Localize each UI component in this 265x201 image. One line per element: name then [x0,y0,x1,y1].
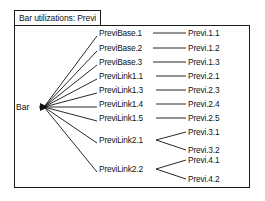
window-title-tab: Bar utilizations: Previ [14,10,101,26]
node-mid-1: PreviBase.2 [99,43,143,53]
node-leaf-9: Previ.4.1 [188,155,220,165]
node-mid-6: PreviLink1.5 [99,113,143,123]
node-mid-5: PreviLink1.4 [99,99,143,109]
node-mid-4: PreviLink1.3 [99,85,143,95]
node-leaf-2: Previ.1.3 [188,57,220,67]
node-leaf-6: Previ.2.5 [188,113,220,123]
node-root: Bar [16,102,30,112]
branch-edges [153,33,186,179]
tree-graph: Bar PreviBase.1 PreviBase.2 PreviBase.3 … [0,0,265,201]
root-edges [44,36,97,172]
node-mid-0: PreviBase.1 [99,28,143,38]
diagram-canvas: Bar utilizations: Previ [0,0,265,201]
node-mid-3: PreviLink1.1 [99,71,143,81]
node-leaf-3: Previ.2.1 [188,71,220,81]
node-leaf-5: Previ.2.4 [188,99,220,109]
node-leaf-7: Previ.3.1 [188,127,220,137]
node-leaf-10: Previ.4.2 [188,174,220,184]
node-leaf-8: Previ.3.2 [188,145,220,155]
node-leaf-4: Previ.2.3 [188,85,220,95]
window-title: Bar utilizations: Previ [19,14,96,23]
node-leaf-0: Previ.1.1 [188,28,220,38]
node-mid-8: PreviLink2.2 [99,164,143,174]
node-mid-2: PreviBase.3 [99,57,143,67]
node-mid-7: PreviLink2.1 [99,135,143,145]
node-leaf-1: Previ.1.2 [188,43,220,53]
